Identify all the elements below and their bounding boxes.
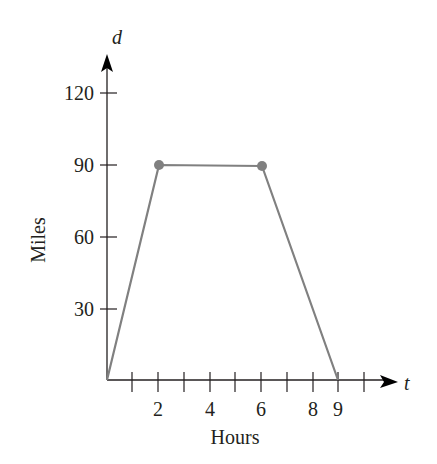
y-ticks — [100, 93, 117, 309]
y-tick-label-30: 30 — [74, 298, 94, 320]
x-ticks — [132, 372, 364, 392]
x-axis-title: Hours — [211, 426, 260, 448]
data-point-6-90 — [257, 161, 267, 171]
chart: d t 120 90 60 30 2 4 6 8 9 Hours Miles — [0, 0, 437, 464]
data-point-2-90 — [154, 160, 164, 170]
x-tick-label-4: 4 — [205, 398, 215, 420]
x-axis-arrow-icon — [380, 375, 398, 388]
y-axis-variable: d — [112, 26, 123, 48]
y-tick-label-120: 120 — [64, 82, 94, 104]
y-tick-label-60: 60 — [74, 226, 94, 248]
distance-line — [107, 165, 338, 380]
x-axis-variable: t — [404, 372, 410, 394]
y-tick-label-90: 90 — [74, 154, 94, 176]
x-tick-label-9: 9 — [333, 398, 343, 420]
x-tick-label-6: 6 — [256, 398, 266, 420]
y-axis-title: Miles — [27, 217, 49, 263]
x-tick-label-8: 8 — [308, 398, 318, 420]
x-tick-label-2: 2 — [153, 398, 163, 420]
